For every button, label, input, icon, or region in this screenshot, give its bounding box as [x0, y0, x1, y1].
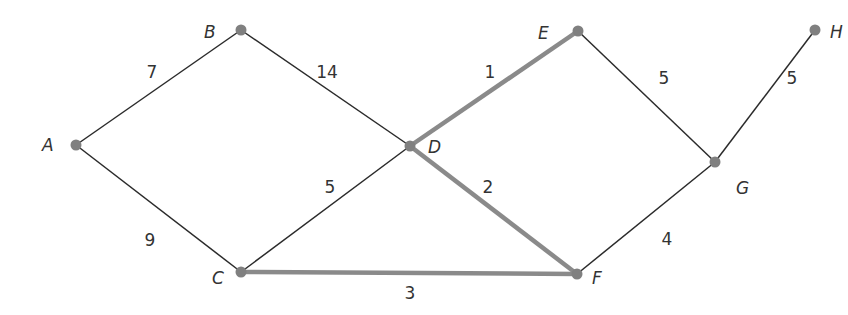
node-g: [710, 157, 721, 168]
edge-weight-f-g: 4: [662, 229, 673, 249]
node-label-h: H: [830, 22, 843, 42]
node-f: [572, 269, 583, 280]
weighted-graph-diagram: 71495123554 ABCDEFGH: [0, 0, 848, 315]
node-h: [810, 25, 821, 36]
edge-weight-c-d: 5: [325, 177, 336, 197]
edge-f-g: [577, 162, 715, 274]
edge-weight-g-h: 5: [787, 68, 798, 88]
node-a: [71, 140, 82, 151]
node-label-e: E: [538, 23, 549, 43]
edge-weight-a-b: 7: [147, 62, 158, 82]
graph-edges: [76, 30, 815, 274]
edge-e-g: [578, 31, 715, 162]
edge-weight-e-g: 5: [659, 68, 670, 88]
node-labels: ABCDEFGH: [41, 22, 843, 288]
node-c: [236, 267, 247, 278]
node-d: [405, 141, 416, 152]
edge-d-f: [410, 146, 577, 274]
node-e: [573, 26, 584, 37]
node-label-a: A: [41, 135, 54, 155]
edge-weight-d-e: 1: [485, 62, 496, 82]
edge-weight-c-f: 3: [405, 283, 416, 303]
node-label-f: F: [592, 268, 602, 288]
edge-c-f: [241, 272, 577, 274]
node-label-b: B: [204, 22, 216, 42]
graph-nodes: [71, 25, 821, 280]
edge-b-d: [241, 30, 410, 146]
edge-c-d: [241, 146, 410, 272]
node-label-d: D: [428, 137, 441, 157]
edge-a-b: [76, 30, 241, 145]
edge-a-c: [76, 145, 241, 272]
edge-weight-d-f: 2: [483, 177, 494, 197]
edge-d-e: [410, 31, 578, 146]
node-label-g: G: [736, 178, 749, 198]
edge-weight-b-d: 14: [316, 62, 338, 82]
edge-g-h: [715, 30, 815, 162]
node-b: [236, 25, 247, 36]
node-label-c: C: [212, 268, 224, 288]
edge-weight-a-c: 9: [145, 230, 156, 250]
